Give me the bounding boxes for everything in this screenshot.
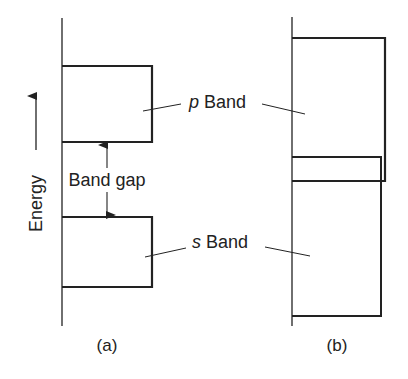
band-diagram: Energy Band gap (a) (b): [0, 0, 408, 379]
s-band-word: Band: [201, 232, 248, 252]
p-band-label: p Band: [188, 92, 246, 112]
p-letter: p: [188, 92, 199, 112]
panel-a-s-band-box: [62, 217, 152, 287]
band-gap-label: Band gap: [68, 170, 145, 190]
panel-a-p-band-box: [62, 66, 152, 142]
p-band-leader-a: [143, 104, 181, 111]
panel-a-caption: (a): [97, 336, 118, 355]
panel-b: (b): [292, 17, 385, 355]
s-band-label-group: s Band: [145, 232, 310, 257]
panel-b-p-band-box: [292, 38, 385, 181]
p-band-leader-b: [262, 104, 305, 114]
s-band-label: s Band: [192, 232, 248, 252]
panel-b-caption: (b): [327, 336, 348, 355]
p-band-label-group: p Band: [143, 92, 305, 114]
s-letter: s: [192, 232, 201, 252]
energy-axis: Energy: [26, 96, 46, 232]
p-band-word: Band: [199, 92, 246, 112]
energy-label: Energy: [26, 175, 46, 232]
panel-a: Band gap (a): [62, 18, 152, 355]
s-band-leader-b: [265, 247, 310, 256]
